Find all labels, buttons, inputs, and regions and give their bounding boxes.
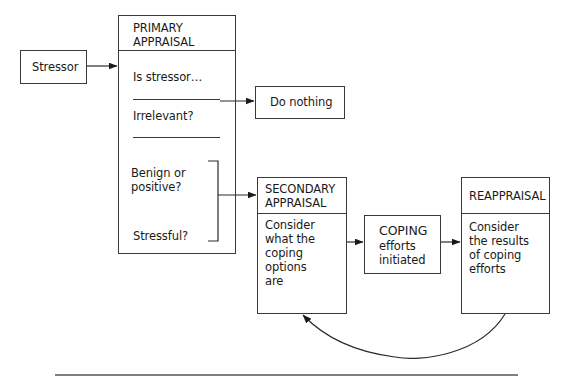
bracket-benign-stressful (208, 161, 218, 241)
arrow-feedback-reappraisal-to-secondary (303, 314, 505, 358)
connectors (0, 0, 566, 377)
